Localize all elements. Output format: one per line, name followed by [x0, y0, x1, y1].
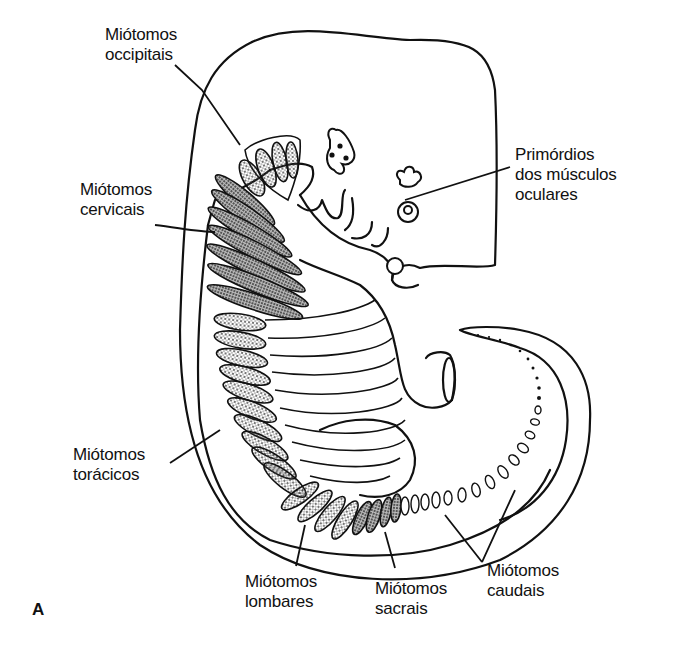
label-line: sacrais: [375, 599, 447, 619]
label-caudal-myotomes: Miótomos caudais: [487, 561, 559, 601]
label-line: Miótomos: [80, 180, 152, 200]
label-line: caudais: [487, 581, 559, 601]
label-line: dos músculos: [515, 165, 617, 185]
label-line: Primórdios: [515, 145, 617, 165]
label-thoracic-myotomes: Miótomos torácicos: [73, 445, 145, 485]
label-line: lombares: [245, 592, 317, 612]
label-occipital-myotomes: Miótomos occipitais: [105, 25, 177, 65]
label-line: Miótomos: [487, 561, 559, 581]
embryo-diagram: Miótomos occipitais Primórdios dos múscu…: [0, 0, 688, 658]
label-line: oculares: [515, 185, 617, 205]
label-line: torácicos: [73, 465, 145, 485]
label-line: Miótomos: [73, 445, 145, 465]
label-line: cervicais: [80, 200, 152, 220]
label-ocular-muscle-primordia: Primórdios dos músculos oculares: [515, 145, 617, 205]
label-lumbar-myotomes: Miótomos lombares: [245, 572, 317, 612]
label-line: occipitais: [105, 45, 177, 65]
otic-vesicle: [327, 129, 354, 174]
embryo-drawing: [0, 0, 688, 658]
label-line: Miótomos: [105, 25, 177, 45]
label-line: Miótomos: [245, 572, 317, 592]
label-line: Miótomos: [375, 579, 447, 599]
label-cervical-myotomes: Miótomos cervicais: [80, 180, 152, 220]
panel-label: A: [32, 600, 44, 620]
label-sacral-myotomes: Miótomos sacrais: [375, 579, 447, 619]
